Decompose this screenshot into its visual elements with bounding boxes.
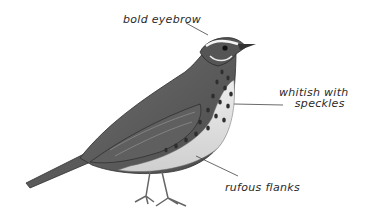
breast-leader-line bbox=[234, 104, 283, 105]
bird-leg-right bbox=[156, 172, 186, 206]
bird-eye bbox=[222, 45, 227, 50]
label-whitish-with-speckles: whitish with speckles bbox=[279, 87, 349, 109]
label-rufous-flanks: rufous flanks bbox=[225, 182, 300, 193]
flanks-leader-line bbox=[196, 156, 238, 176]
label-bold-eyebrow: bold eyebrow bbox=[123, 14, 201, 25]
bird-illustration bbox=[0, 0, 366, 221]
bird-beak bbox=[238, 44, 256, 50]
label-line-2: speckles bbox=[291, 98, 349, 109]
bird-diagram: bold eyebrow whitish with speckles rufou… bbox=[0, 0, 366, 221]
bird-leg-left bbox=[135, 172, 154, 204]
